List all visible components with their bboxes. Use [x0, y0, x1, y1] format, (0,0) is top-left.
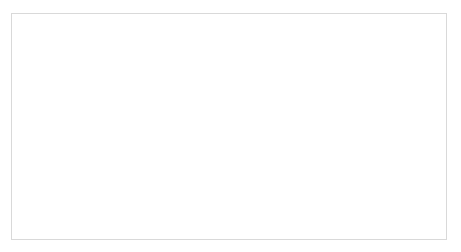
chart-container: 050100150200250300350400450 198019821984… — [0, 0, 461, 252]
chart-frame — [11, 13, 447, 240]
